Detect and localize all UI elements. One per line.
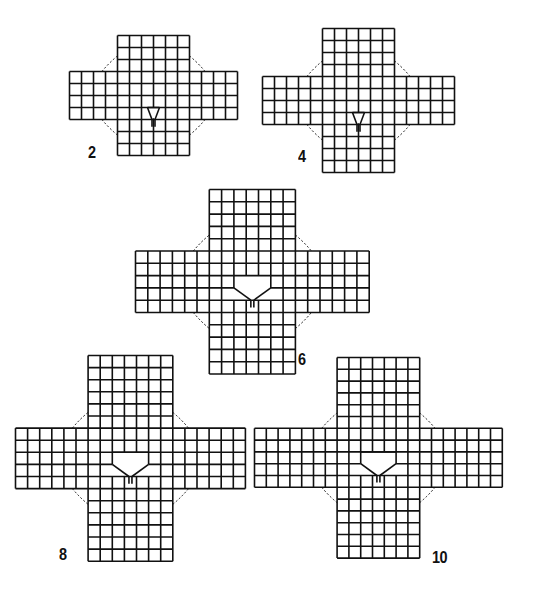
size-2-grid <box>68 34 240 158</box>
size-label-6: 6 <box>298 350 306 370</box>
size-label-4: 4 <box>298 147 306 167</box>
size-8-grid <box>14 354 248 564</box>
size-10-grid <box>253 356 505 561</box>
size-label-2: 2 <box>88 143 96 163</box>
size-4-grid <box>261 27 457 175</box>
size-label-10: 10 <box>432 548 447 568</box>
size-label-8: 8 <box>59 545 67 565</box>
size-6-grid <box>134 188 372 377</box>
